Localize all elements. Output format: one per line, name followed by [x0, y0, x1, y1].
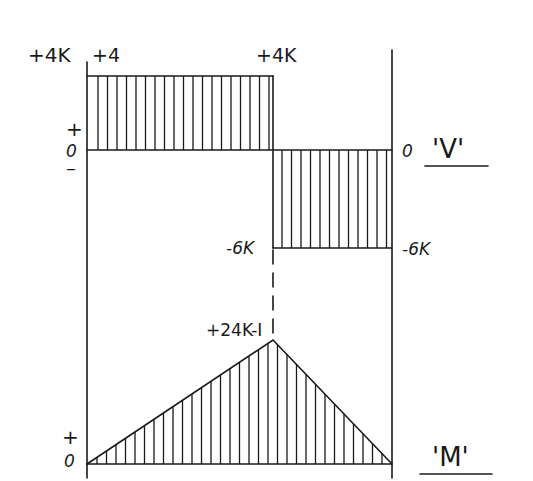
- shear-negative-region: [273, 150, 392, 248]
- shear-left-top-label: +4K: [28, 43, 71, 67]
- shear-right-bottom-label: -6K: [402, 239, 432, 259]
- shear-right-zero-label: 0: [402, 141, 413, 161]
- shear-positive-region: [87, 76, 392, 150]
- shear-mid-top-label: +4K: [256, 44, 297, 66]
- shear-minus-sign: –: [66, 156, 76, 180]
- shear-plus-sign: +: [66, 117, 83, 141]
- moment-diagram-title: 'M': [432, 442, 469, 472]
- shear-left-inner-label: +4: [92, 44, 120, 66]
- moment-zero-sign: 0: [64, 451, 75, 471]
- moment-region: [87, 340, 392, 464]
- moment-peak-label: +24K-I: [206, 320, 262, 340]
- shear-mid-bottom-label: -6K: [226, 238, 256, 258]
- shear-moment-diagram: +4K +4 +4K + 0 – 0 'V' -6K -6K +24K-I + …: [0, 0, 533, 481]
- shear-diagram-title: 'V': [432, 134, 464, 164]
- moment-plus-sign: +: [62, 425, 79, 449]
